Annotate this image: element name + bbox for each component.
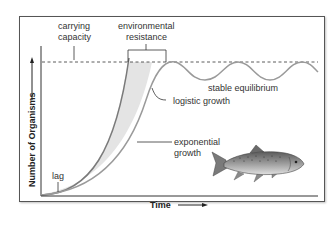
environmental-resistance-bracket: [128, 50, 166, 62]
label-carrying-capacity-line1: carrying: [58, 21, 90, 31]
label-exponential-growth-line2: growth: [174, 148, 201, 158]
y-axis-label: Number of Organisms: [27, 92, 37, 187]
label-environmental-resistance-line2: resistance: [126, 32, 167, 42]
label-environmental-resistance-line1: environmental: [118, 21, 175, 31]
label-stable-equilibrium: stable equilibrium: [208, 83, 278, 93]
fish-icon: [212, 145, 304, 182]
label-lag: lag: [52, 171, 64, 181]
x-arrow-head: [202, 203, 208, 207]
label-exponential-growth-line1: exponential: [174, 137, 220, 147]
logistic-curve: [42, 62, 318, 195]
label-carrying-capacity-line2: capacity: [58, 32, 91, 42]
x-axis-label: Time: [150, 200, 171, 210]
y-arrow-head: [30, 57, 34, 63]
label-logistic-growth: logistic growth: [173, 96, 230, 106]
growth-curve-graphic: [0, 0, 335, 227]
logistic-leader: [152, 88, 166, 100]
